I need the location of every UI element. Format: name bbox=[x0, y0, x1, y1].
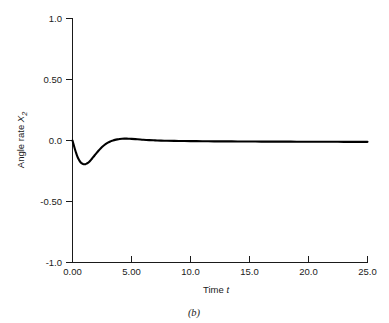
y-tick-label-neg1.0: -1.0 bbox=[46, 257, 62, 268]
figure-caption: (b) bbox=[188, 307, 201, 319]
y-axis-ticks bbox=[66, 19, 72, 263]
x-tick-label-0.00: 0.00 bbox=[63, 266, 82, 277]
y-tick-label-0.50: 0.50 bbox=[44, 74, 63, 85]
y-tick-label-neg0.50: -0.50 bbox=[40, 196, 62, 207]
x-axis-title-symbol: t bbox=[226, 284, 229, 295]
x-axis-title-text: Time bbox=[203, 284, 226, 295]
chart-canvas: 1.0 0.50 0.0 -0.50 -1.0 0.00 5.00 10.0 1… bbox=[0, 0, 389, 323]
y-axis-title-subscript: 2 bbox=[20, 112, 29, 117]
y-tick-label-1.0: 1.0 bbox=[49, 13, 62, 24]
x-tick-label-10.0: 10.0 bbox=[181, 266, 200, 277]
figure-container: 1.0 0.50 0.0 -0.50 -1.0 0.00 5.00 10.0 1… bbox=[0, 0, 389, 323]
x-axis-title: Time t bbox=[203, 284, 229, 295]
y-axis-title-text: Angle rate bbox=[15, 122, 26, 168]
x-axis-tick-labels: 0.00 5.00 10.0 15.0 20.0 25.0 bbox=[63, 266, 377, 277]
y-axis-title: Angle rate X2 bbox=[15, 112, 29, 168]
data-series-line bbox=[73, 139, 368, 165]
x-tick-label-15.0: 15.0 bbox=[240, 266, 259, 277]
x-tick-label-25.0: 25.0 bbox=[358, 266, 377, 277]
y-tick-label-0.0: 0.0 bbox=[49, 135, 62, 146]
x-axis-ticks bbox=[73, 256, 368, 262]
x-tick-label-5.00: 5.00 bbox=[122, 266, 141, 277]
y-axis-tick-labels: 1.0 0.50 0.0 -0.50 -1.0 bbox=[40, 13, 62, 268]
x-tick-label-20.0: 20.0 bbox=[299, 266, 318, 277]
